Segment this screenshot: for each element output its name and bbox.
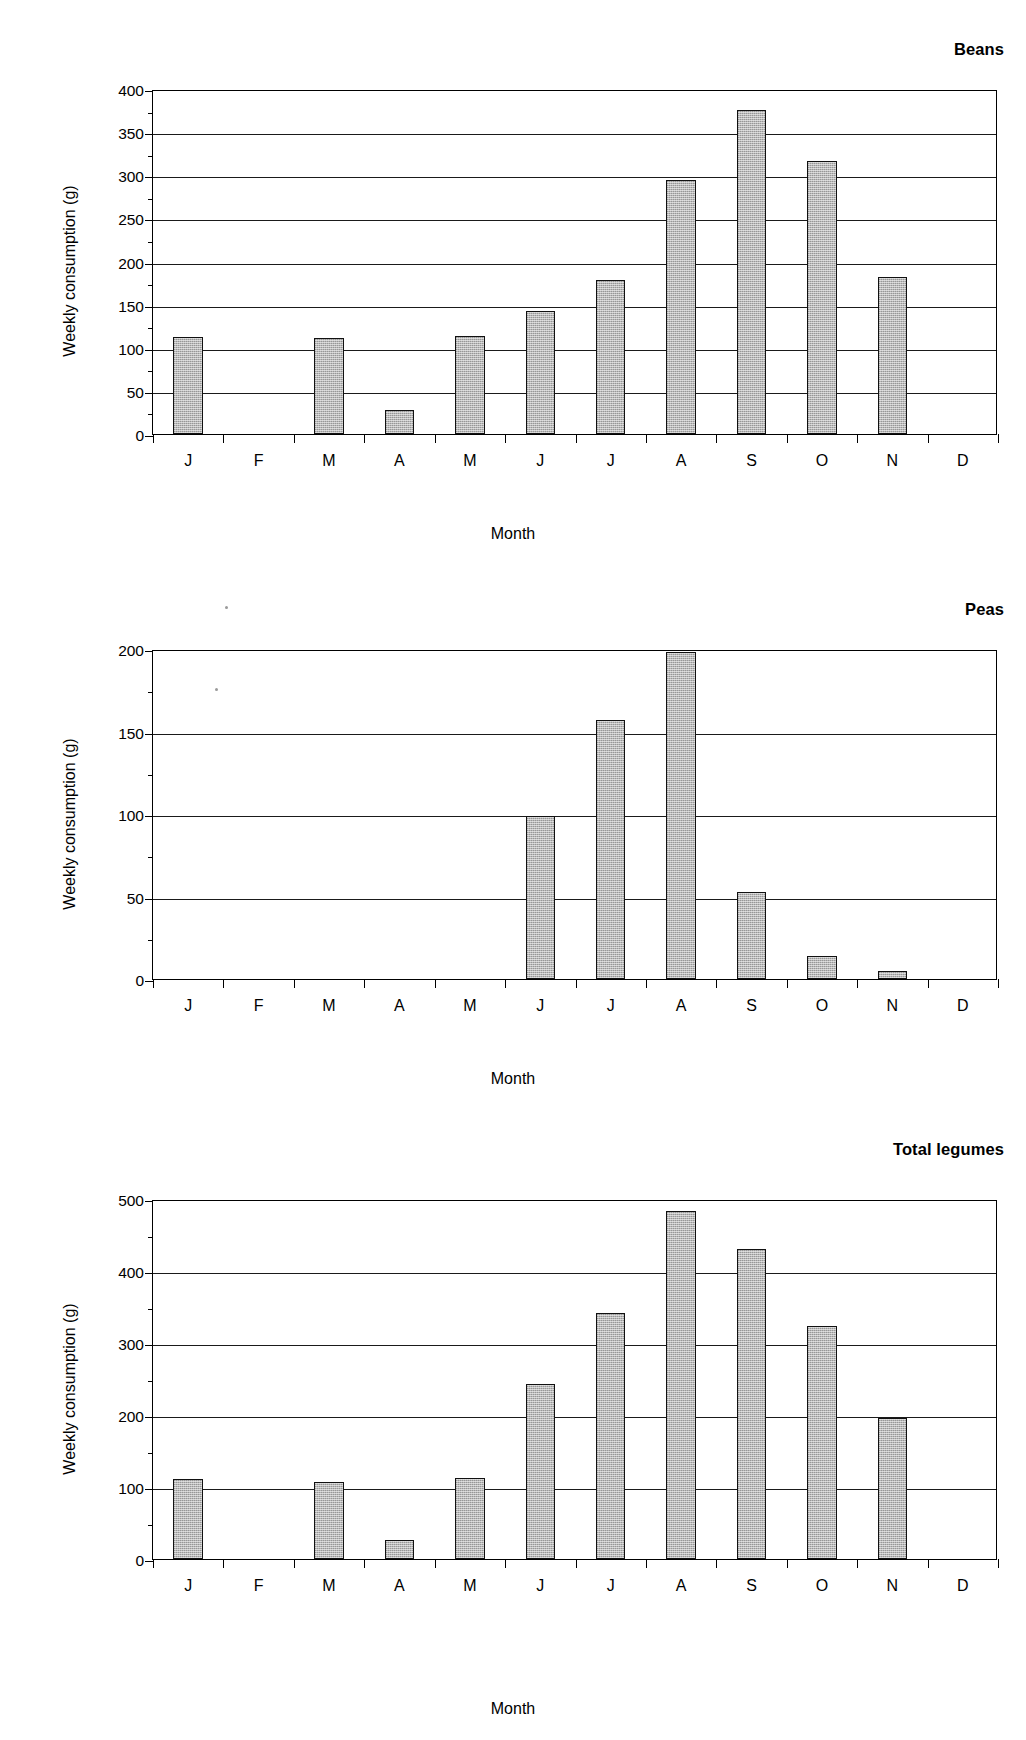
- y-tick-label: 0: [135, 1552, 144, 1570]
- bar-slot: [666, 651, 696, 979]
- bar: [385, 1540, 415, 1559]
- x-tick-mark: [576, 1559, 577, 1568]
- bar-slot: [666, 91, 696, 434]
- x-tick-mark: [998, 434, 999, 443]
- bar-slot: [596, 651, 626, 979]
- bar: [526, 1384, 556, 1559]
- bar: [666, 652, 696, 979]
- y-tick-label: 50: [127, 890, 144, 908]
- x-tick-label: M: [322, 452, 335, 470]
- y-axis-label: Weekly consumption (g): [61, 1239, 79, 1539]
- x-tick-mark: [364, 434, 365, 443]
- x-tick-label: D: [957, 997, 969, 1015]
- x-tick-mark: [646, 434, 647, 443]
- bar-slot: [666, 1201, 696, 1559]
- x-tick-label: O: [816, 997, 828, 1015]
- x-tick-label: A: [394, 997, 405, 1015]
- bar: [596, 720, 626, 979]
- bar-slot: [173, 651, 203, 979]
- x-tick-mark: [576, 979, 577, 988]
- x-tick-mark: [857, 1559, 858, 1568]
- y-tick-mark: [145, 393, 153, 394]
- x-tick-mark: [505, 1559, 506, 1568]
- chart-total-legumes: Total legumes Weekly consumption (g) 010…: [0, 1140, 1026, 1710]
- bar: [596, 1313, 626, 1559]
- x-tick-label: A: [676, 1577, 687, 1595]
- bar: [878, 1418, 908, 1559]
- y-tick-mark: [145, 1417, 153, 1418]
- bar: [737, 1249, 767, 1559]
- y-tick-mark: [145, 816, 153, 817]
- x-tick-label: S: [746, 997, 757, 1015]
- x-tick-mark: [435, 1559, 436, 1568]
- scan-speck: [215, 688, 218, 691]
- x-tick-mark: [928, 434, 929, 443]
- bar: [526, 311, 556, 434]
- x-tick-mark: [576, 434, 577, 443]
- y-tick-label: 400: [118, 82, 144, 100]
- x-tick-label: A: [394, 452, 405, 470]
- x-tick-mark: [787, 1559, 788, 1568]
- y-tick-mark: [145, 1345, 153, 1346]
- y-tick-mark: [145, 350, 153, 351]
- x-axis-label: Month: [0, 525, 1026, 543]
- bar-slot: [807, 651, 837, 979]
- x-tick-mark: [294, 434, 295, 443]
- bar-slot: [244, 651, 274, 979]
- bar-slot: [526, 91, 556, 434]
- y-tick-mark: [145, 264, 153, 265]
- chart-title: Total legumes: [893, 1140, 1004, 1159]
- bar: [173, 1479, 203, 1559]
- bar-slot: [314, 651, 344, 979]
- scan-speck: [225, 606, 228, 609]
- chart-peas: Peas Weekly consumption (g) 050100150200…: [0, 600, 1026, 1100]
- x-tick-label: J: [536, 1577, 544, 1595]
- chart-title: Peas: [965, 600, 1004, 619]
- bar: [807, 956, 837, 979]
- x-tick-label: M: [322, 997, 335, 1015]
- x-tick-mark: [998, 979, 999, 988]
- figure-page: Beans Weekly consumption (g) 05010015020…: [0, 0, 1026, 1740]
- x-tick-mark: [153, 434, 154, 443]
- x-tick-label: A: [394, 1577, 405, 1595]
- bar-slot: [526, 1201, 556, 1559]
- x-tick-label: J: [536, 997, 544, 1015]
- bar: [455, 1478, 485, 1559]
- bar-series: [153, 1201, 996, 1559]
- x-tick-label: J: [607, 997, 615, 1015]
- bar-slot: [455, 651, 485, 979]
- x-tick-mark: [857, 979, 858, 988]
- y-tick-mark: [145, 1561, 153, 1562]
- plot-area: 050100150200250300350400JFMAMJJASOND: [152, 90, 997, 435]
- y-tick-mark: [145, 307, 153, 308]
- x-tick-mark: [716, 1559, 717, 1568]
- y-tick-label: 350: [118, 125, 144, 143]
- bar-slot: [807, 1201, 837, 1559]
- y-tick-label: 200: [118, 255, 144, 273]
- bar: [596, 280, 626, 434]
- x-tick-label: J: [607, 452, 615, 470]
- y-axis-label: Weekly consumption (g): [61, 121, 79, 421]
- x-tick-label: N: [887, 997, 899, 1015]
- bar-series: [153, 91, 996, 434]
- bar: [807, 161, 837, 434]
- bar-slot: [385, 1201, 415, 1559]
- x-tick-label: M: [463, 1577, 476, 1595]
- bar-slot: [596, 1201, 626, 1559]
- bar-slot: [878, 1201, 908, 1559]
- bar: [526, 816, 556, 979]
- x-axis-label: Month: [0, 1070, 1026, 1088]
- plot-area: 050100150200JFMAMJJASOND: [152, 650, 997, 980]
- y-tick-label: 100: [118, 341, 144, 359]
- x-tick-mark: [646, 979, 647, 988]
- y-tick-mark: [145, 981, 153, 982]
- y-tick-label: 200: [118, 642, 144, 660]
- x-tick-mark: [716, 434, 717, 443]
- x-tick-label: J: [607, 1577, 615, 1595]
- bar-slot: [596, 91, 626, 434]
- y-tick-label: 100: [118, 1480, 144, 1498]
- bar-slot: [948, 91, 978, 434]
- bar-slot: [878, 651, 908, 979]
- x-tick-label: N: [887, 452, 899, 470]
- x-tick-mark: [153, 1559, 154, 1568]
